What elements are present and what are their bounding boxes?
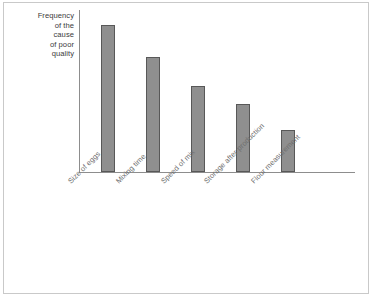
bar bbox=[101, 25, 115, 172]
y-axis-label-line-2: of the bbox=[8, 21, 74, 31]
x-axis-tick-label: Mixing time bbox=[114, 152, 148, 186]
figure-frame-top bbox=[3, 2, 369, 3]
bar bbox=[191, 86, 205, 172]
y-axis-label-line-4: of poor bbox=[8, 40, 74, 50]
figure-frame-left bbox=[3, 2, 4, 294]
y-axis-label-line-1: Frequency bbox=[8, 11, 74, 21]
y-axis-label: Frequency of the cause of poor quality bbox=[8, 11, 74, 59]
y-axis-line bbox=[79, 10, 80, 173]
figure-frame-bottom bbox=[3, 293, 369, 294]
y-axis-label-line-5: quality bbox=[8, 49, 74, 59]
bar bbox=[146, 57, 160, 172]
y-axis-label-line-3: cause bbox=[8, 30, 74, 40]
x-axis-tick-label: Size of eggs bbox=[66, 149, 102, 185]
bar-chart-figure: Frequency of the cause of poor quality S… bbox=[0, 0, 374, 302]
figure-frame-right bbox=[368, 2, 369, 294]
